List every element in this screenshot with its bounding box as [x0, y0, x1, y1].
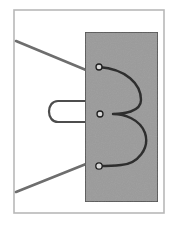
- figure-container: Serpentine filament diagram Line drawing…: [0, 0, 179, 230]
- anchor-knot-top: [96, 64, 102, 70]
- anchor-knot-bottom: [96, 163, 102, 169]
- figure-canvas: [0, 0, 179, 230]
- gray-region: [85, 32, 158, 202]
- anchor-knot-middle: [97, 111, 103, 117]
